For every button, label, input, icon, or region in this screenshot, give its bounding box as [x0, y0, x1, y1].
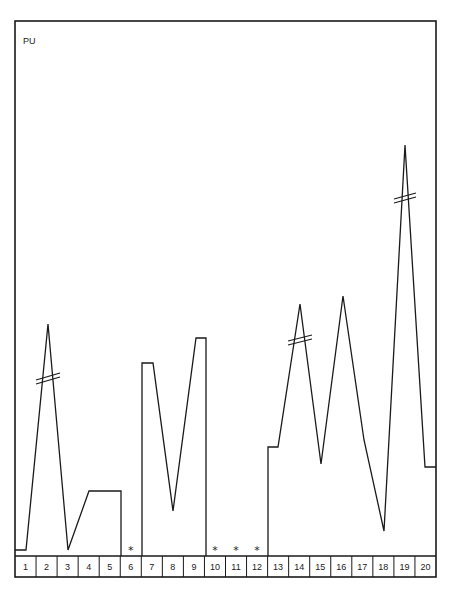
category-tick-label: 8 — [170, 562, 175, 572]
series-segment-1 — [15, 324, 121, 556]
category-tick-label: 13 — [273, 562, 283, 572]
category-tick-label: 11 — [231, 562, 240, 572]
axis-break-icon — [288, 335, 312, 345]
missing-data-asterisk: * — [128, 544, 134, 557]
category-tick-label: 7 — [149, 562, 154, 572]
category-tick-label: 10 — [210, 562, 220, 572]
missing-markers: **** — [128, 544, 260, 557]
category-axis: 1234567891011121314151617181920 — [23, 556, 430, 577]
category-tick-label: 14 — [294, 562, 304, 572]
category-tick-label: 20 — [420, 562, 430, 572]
category-tick-label: 17 — [357, 562, 367, 572]
series-segment-2 — [142, 338, 206, 556]
category-tick-label: 18 — [378, 562, 388, 572]
category-tick-label: 1 — [23, 562, 28, 572]
missing-data-asterisk: * — [233, 544, 239, 557]
category-tick-label: 6 — [128, 562, 133, 572]
category-tick-label: 2 — [44, 562, 49, 572]
category-tick-label: 19 — [399, 562, 409, 572]
missing-data-asterisk: * — [212, 544, 218, 557]
category-tick-label: 5 — [107, 562, 112, 572]
category-tick-label: 9 — [191, 562, 196, 572]
axis-break-icon — [394, 193, 416, 203]
category-tick-label: 12 — [252, 562, 262, 572]
category-tick-label: 3 — [65, 562, 70, 572]
plot-frame — [15, 21, 436, 577]
axis-break-icon — [36, 373, 60, 384]
category-tick-label: 16 — [336, 562, 346, 572]
missing-data-asterisk: * — [254, 544, 260, 557]
series-segment-3 — [268, 145, 436, 556]
line-chart: 1234567891011121314151617181920 **** — [0, 0, 450, 593]
category-tick-label: 4 — [86, 562, 91, 572]
category-tick-label: 15 — [315, 562, 325, 572]
